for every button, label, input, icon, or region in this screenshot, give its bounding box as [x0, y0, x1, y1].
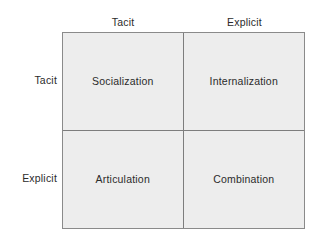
quadrant-grid: Socialization Internalization Articulati…: [62, 32, 305, 229]
row-header-tacit: Tacit: [34, 74, 57, 86]
quadrant-label-socialization: Socialization: [92, 75, 154, 87]
quadrant-combination: Combination: [184, 131, 305, 229]
quadrant-internalization: Internalization: [184, 33, 305, 131]
row-header-explicit: Explicit: [22, 172, 57, 184]
quadrant-label-internalization: Internalization: [210, 75, 278, 87]
column-header-tacit: Tacit: [62, 16, 184, 28]
quadrant-socialization: Socialization: [63, 33, 184, 131]
knowledge-conversion-matrix: Tacit Explicit Tacit Explicit Socializat…: [0, 0, 323, 246]
quadrant-articulation: Articulation: [63, 131, 184, 229]
quadrant-label-combination: Combination: [213, 173, 274, 185]
column-header-explicit: Explicit: [184, 16, 305, 28]
quadrant-label-articulation: Articulation: [96, 173, 150, 185]
